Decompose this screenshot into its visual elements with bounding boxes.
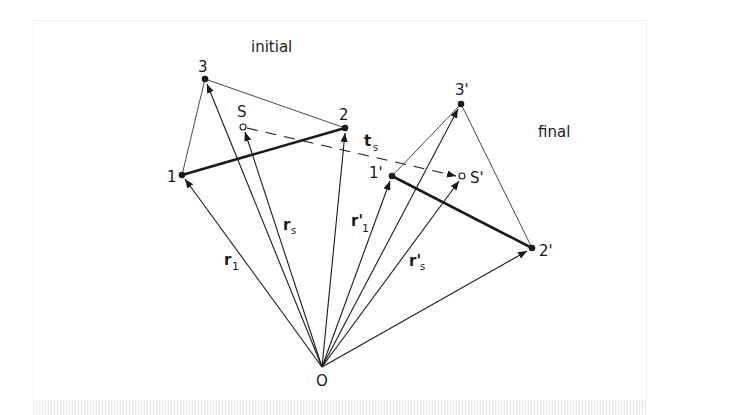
vector-label-r1: r 1 <box>224 251 239 273</box>
label-final: final <box>538 123 570 141</box>
vector-r2 <box>322 133 345 367</box>
svg-text:r: r <box>283 216 291 234</box>
vector-label-ts: t s <box>364 132 378 153</box>
vector-label-rs-prime: r' s <box>409 252 425 272</box>
point-1 <box>179 172 186 179</box>
label-initial: initial <box>251 38 292 56</box>
svg-text:1: 1 <box>232 260 239 273</box>
centroid-S <box>240 124 246 130</box>
point-1-prime <box>389 173 396 180</box>
vector-label-r1-prime: r' 1 <box>351 212 369 235</box>
vector-rs <box>245 132 322 367</box>
point-label-3-prime: 3' <box>455 81 469 99</box>
svg-text:t: t <box>364 132 371 150</box>
point-2-prime <box>529 245 536 252</box>
svg-text:s: s <box>373 142 378 153</box>
point-3 <box>202 76 209 83</box>
point-label-1-prime: 1' <box>369 164 383 182</box>
point-2 <box>342 125 349 132</box>
vector-r1p <box>322 181 390 367</box>
svg-text:r: r <box>224 251 232 269</box>
rigid-body-displacement-diagram: initial final 3 1 2 S 3' 1' 2' S' O t s … <box>0 0 735 415</box>
point-label-2-prime: 2' <box>539 242 553 260</box>
point-3-prime <box>458 101 465 108</box>
svg-text:s: s <box>291 225 296 236</box>
point-label-2: 2 <box>339 106 349 124</box>
translation-vector-ts <box>247 128 456 176</box>
svg-text:1: 1 <box>362 222 369 235</box>
svg-text:s: s <box>420 261 425 272</box>
initial-triangle <box>182 79 345 175</box>
vector-rsp <box>322 181 459 367</box>
centroid-S-prime <box>459 173 465 179</box>
vector-r3 <box>207 84 322 367</box>
point-label-S: S <box>237 103 247 121</box>
vector-label-rs: r s <box>283 216 296 236</box>
point-label-S-prime: S' <box>470 169 484 187</box>
origin-label: O <box>316 372 328 390</box>
vector-r1 <box>185 179 322 367</box>
point-label-1: 1 <box>167 168 177 186</box>
point-label-3: 3 <box>198 58 208 76</box>
